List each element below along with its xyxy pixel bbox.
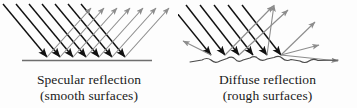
diffuse-caption-primary: Diffuse reflection <box>178 72 357 88</box>
reflected-ray <box>125 8 169 57</box>
specular-caption-primary: Specular reflection <box>0 72 178 88</box>
rough-surface-line <box>190 56 338 62</box>
specular-reflection-panel: Specular reflection (smooth surfaces) <box>0 0 178 108</box>
diffuse-caption-secondary: (rough surfaces) <box>178 88 357 104</box>
specular-caption-secondary: (smooth surfaces) <box>0 88 178 104</box>
scattered-ray <box>267 5 274 55</box>
reflected-ray <box>112 8 156 57</box>
diffuse-reflection-diagram <box>178 0 357 72</box>
reflection-figure: Specular reflection (smooth surfaces) <box>0 0 357 108</box>
incident-ray <box>3 4 47 57</box>
scattered-ray <box>183 41 211 55</box>
diffuse-reflection-panel: Diffuse reflection (rough surfaces) <box>178 0 357 108</box>
specular-reflection-diagram <box>0 0 178 72</box>
